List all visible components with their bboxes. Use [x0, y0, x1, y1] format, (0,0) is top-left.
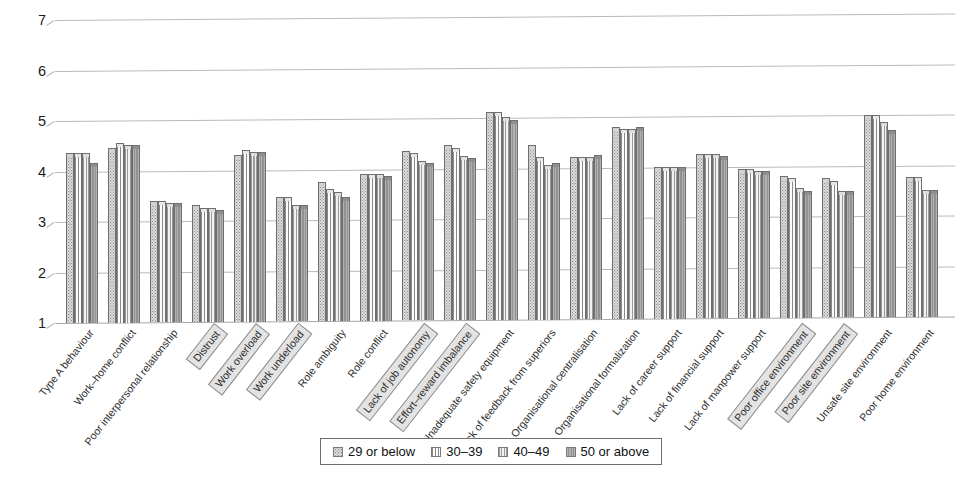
bar-top-cap: [384, 176, 392, 180]
bar: [90, 166, 98, 323]
plot-area: 1234567: [55, 20, 955, 323]
bar-group: [192, 19, 224, 322]
bar-group: [234, 19, 266, 322]
bar: [426, 166, 434, 320]
bar-top-cap: [334, 192, 342, 196]
bar: [242, 153, 250, 322]
bar: [66, 156, 74, 323]
bar: [914, 180, 922, 316]
bar-top-cap: [82, 153, 90, 157]
bar-top-cap: [116, 143, 124, 147]
bar-group: [570, 16, 602, 319]
bar-top-cap: [552, 163, 560, 167]
y-tick-connector: [46, 20, 54, 26]
bar: [132, 148, 140, 322]
bar: [780, 179, 788, 318]
bar: [384, 179, 392, 320]
x-axis-labels: Type A behaviourWork–home conflictPoor i…: [0, 323, 974, 433]
bar: [906, 180, 914, 316]
x-axis-label: Lack of job autonomy: [356, 323, 438, 421]
bar-top-cap: [410, 153, 418, 157]
bar-top-cap: [544, 165, 552, 169]
bar: [444, 148, 452, 320]
bar-top-cap: [166, 203, 174, 207]
bar: [888, 133, 896, 317]
bar-top-cap: [822, 178, 830, 182]
bar: [452, 151, 460, 320]
bar: [368, 177, 376, 321]
bar: [150, 204, 158, 323]
bar-top-cap: [150, 201, 158, 205]
bar-top-cap: [612, 127, 620, 131]
bar-top-cap: [342, 197, 350, 201]
legend-label: 30–39: [446, 444, 482, 459]
bar: [258, 155, 266, 322]
bar-group: [612, 16, 644, 319]
y-tick-connector: [46, 222, 54, 228]
bar-top-cap: [712, 154, 720, 158]
bar-top-cap: [200, 208, 208, 212]
bar-top-cap: [914, 177, 922, 181]
legend-item[interactable]: 40–49: [498, 444, 549, 459]
bar-top-cap: [704, 154, 712, 158]
bar: [234, 158, 242, 322]
bar-top-cap: [452, 148, 460, 152]
bar-top-cap: [468, 158, 476, 162]
bar-group: [444, 17, 476, 320]
bar: [754, 174, 762, 318]
bar: [116, 146, 124, 323]
bar: [376, 177, 384, 321]
bar-top-cap: [360, 174, 368, 178]
bar: [704, 157, 712, 319]
bar: [796, 191, 804, 317]
bars-layer: [55, 20, 955, 323]
bar-top-cap: [654, 167, 662, 171]
bar: [292, 208, 300, 322]
bar-top-cap: [594, 155, 602, 159]
bar-top-cap: [838, 191, 846, 195]
bar-top-cap: [788, 178, 796, 182]
bar-group: [360, 18, 392, 321]
bar: [108, 151, 116, 323]
bar: [570, 160, 578, 319]
bar-top-cap: [746, 169, 754, 173]
bar: [830, 184, 838, 318]
bar: [74, 156, 82, 323]
bar: [82, 156, 90, 323]
bar: [460, 159, 468, 321]
bar-group: [906, 14, 938, 317]
bar: [880, 125, 888, 317]
legend-item[interactable]: 29 or below: [333, 444, 415, 459]
bar-top-cap: [662, 167, 670, 171]
bar: [586, 160, 594, 319]
bar-top-cap: [872, 115, 880, 119]
bar-top-cap: [292, 205, 300, 209]
bar-top-cap: [762, 171, 770, 175]
bar: [662, 170, 670, 319]
bar: [300, 208, 308, 322]
y-tick-connector: [46, 273, 54, 279]
solid-swatch: [566, 447, 576, 457]
bar: [738, 172, 746, 318]
bar: [552, 166, 560, 320]
bar: [158, 204, 166, 323]
checkered-swatch: [333, 447, 343, 457]
bar: [720, 159, 728, 318]
y-axis-tick-label: 3: [38, 215, 46, 230]
y-axis-tick-label: 7: [38, 13, 46, 28]
bar-top-cap: [510, 120, 518, 124]
bar-top-cap: [670, 167, 678, 171]
bar: [510, 123, 518, 320]
bar: [846, 194, 854, 318]
legend-label: 40–49: [513, 444, 549, 459]
bar: [124, 148, 132, 322]
bar: [334, 195, 342, 321]
bar-top-cap: [636, 127, 644, 131]
bar-top-cap: [208, 208, 216, 212]
bar: [628, 132, 636, 319]
bar-group: [864, 14, 896, 317]
bar-top-cap: [804, 191, 812, 195]
legend-item[interactable]: 50 or above: [566, 444, 650, 459]
legend-item[interactable]: 30–39: [431, 444, 482, 459]
legend-label: 50 or above: [581, 444, 650, 459]
